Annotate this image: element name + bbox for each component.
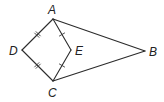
vertex-label-d: D [9, 44, 18, 58]
segment-ab [53, 19, 145, 51]
tick-marks-group [35, 32, 65, 69]
segment-ad [22, 19, 53, 50]
vertex-label-c: C [48, 86, 57, 100]
vertex-label-a: A [47, 3, 56, 17]
segment-dc [22, 50, 53, 81]
geometry-diagram: A B C D E [0, 0, 164, 102]
segment-cb [53, 51, 145, 81]
vertex-label-b: B [149, 45, 157, 59]
vertex-label-e: E [75, 44, 84, 58]
vertex-labels-group: A B C D E [9, 3, 157, 100]
segments-group [22, 19, 145, 81]
